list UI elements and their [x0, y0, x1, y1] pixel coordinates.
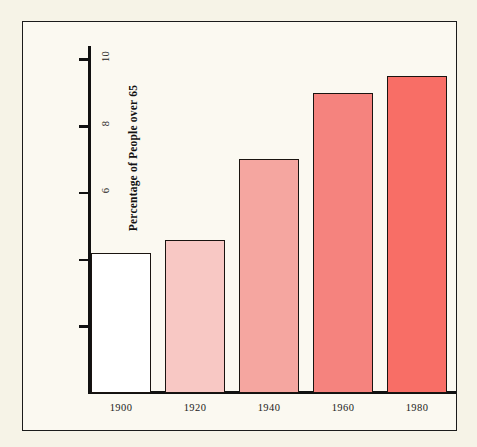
x-tick-label: 1900: [91, 402, 151, 413]
bar: [91, 253, 151, 393]
y-tick-mark: [79, 58, 89, 61]
bar: [387, 76, 447, 393]
y-tick-label: 6: [100, 177, 111, 203]
figure-canvas: 246810 19001920194019601980 Percentage o…: [0, 0, 477, 447]
x-tick-label: 1960: [313, 402, 373, 413]
x-tick-label: 1980: [387, 402, 447, 413]
x-tick-label: 1940: [239, 402, 299, 413]
plot-area: 246810 19001920194019601980 Percentage o…: [68, 44, 438, 392]
y-tick-label: 8: [100, 111, 111, 137]
bar: [165, 240, 225, 393]
y-tick-mark: [79, 325, 89, 328]
y-tick-mark: [79, 125, 89, 128]
chart-frame: 246810 19001920194019601980 Percentage o…: [22, 21, 457, 431]
y-tick-mark: [79, 192, 89, 195]
bar: [239, 159, 299, 393]
y-tick-label: 10: [100, 44, 111, 70]
y-tick-mark: [79, 259, 89, 262]
x-tick-label: 1920: [165, 402, 225, 413]
bar: [313, 93, 373, 393]
y-axis-title: Percentage of People over 65: [127, 53, 139, 263]
